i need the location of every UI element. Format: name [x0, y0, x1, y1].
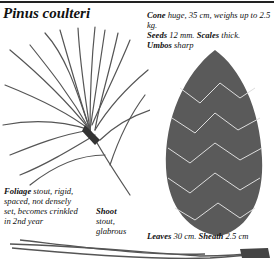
cone-description: Cone huge, 35 cm, weighs up to 2.5 kg. S…: [147, 10, 274, 50]
seeds-label: Seeds: [147, 30, 167, 40]
species-title: Pinus coulteri: [3, 5, 90, 22]
shoot-description: Shoot stout, glabrous: [96, 206, 136, 236]
shoot-label: Shoot: [96, 206, 117, 216]
seeds-text: 12 mm.: [167, 30, 197, 40]
cone-text: huge, 35 cm, weighs up to 2.5 kg.: [147, 10, 270, 30]
foliage-description: Foliage stout, rigid, spaced, not densel…: [4, 186, 84, 226]
foliage-label: Foliage: [4, 186, 31, 196]
scales-label: Scales: [197, 30, 219, 40]
cone-label: Cone: [147, 10, 166, 20]
foliage-shoot-illustration: [0, 25, 150, 200]
top-rule: [0, 1, 274, 3]
scales-text: thick.: [219, 30, 240, 40]
needle-leaf-illustration: [0, 234, 274, 264]
shoot-text: stout, glabrous: [96, 216, 126, 236]
cone-illustration: [160, 48, 270, 238]
